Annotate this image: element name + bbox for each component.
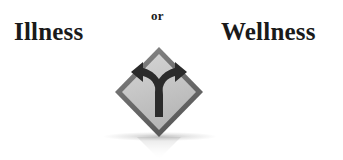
illness-label: Illness [14,18,83,46]
sign-reflection-icon [116,137,202,159]
fork-in-the-road-sign-icon [113,45,205,140]
sign-reflection [116,137,202,159]
wellness-label: Wellness [221,18,316,46]
or-conjunction-label: or [151,8,164,23]
road-sign-graphic [113,45,205,140]
illness-or-wellness-graphic: Illness or Wellness [0,0,343,160]
